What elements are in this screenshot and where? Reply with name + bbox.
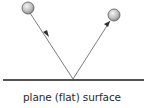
- reflected-ray: [73, 21, 110, 79]
- reflected-arrow-icon: [104, 21, 110, 27]
- incident-ball-icon: [22, 2, 34, 14]
- incident-ray: [30, 13, 73, 79]
- reflected-ball-icon: [108, 9, 120, 21]
- diagram-caption: plane (flat) surface: [0, 91, 144, 103]
- incident-arrow-icon: [43, 30, 49, 37]
